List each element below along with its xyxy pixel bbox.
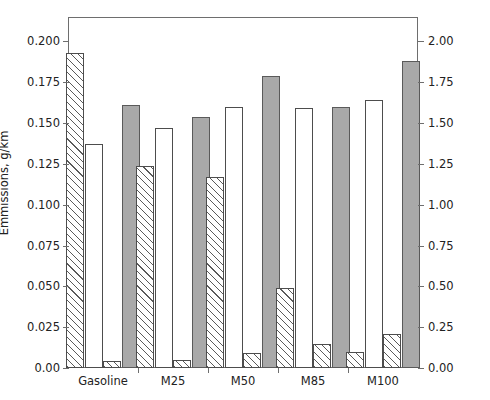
right-axis-tick-label: 1.75 bbox=[428, 76, 468, 88]
right-axis-tick bbox=[418, 286, 424, 287]
bar bbox=[402, 61, 420, 368]
left-axis-tick bbox=[63, 41, 69, 42]
right-axis-tick-label: 1.00 bbox=[428, 199, 468, 211]
right-axis-tick-label: 0.50 bbox=[428, 280, 468, 292]
left-axis-title: Emmissions, g/km bbox=[0, 131, 11, 236]
left-axis-tick bbox=[63, 164, 69, 165]
left-axis-tick bbox=[63, 123, 69, 124]
bar bbox=[276, 288, 294, 368]
left-axis-tick-label: 0.00 bbox=[10, 362, 60, 374]
bar bbox=[85, 144, 103, 368]
bar bbox=[173, 360, 191, 368]
category-label-m100: M100 bbox=[348, 375, 418, 387]
bar bbox=[225, 107, 243, 368]
right-axis-tick-label: 2.00 bbox=[428, 35, 468, 47]
right-axis-tick-label: 1.50 bbox=[428, 117, 468, 129]
bar bbox=[313, 344, 331, 368]
right-axis-tick bbox=[418, 205, 424, 206]
bar bbox=[155, 128, 173, 368]
left-axis-tick bbox=[63, 246, 69, 247]
bar bbox=[383, 334, 401, 368]
left-axis-tick bbox=[63, 205, 69, 206]
right-axis-tick bbox=[418, 164, 424, 165]
right-axis-tick bbox=[418, 327, 424, 328]
right-axis-tick-label: 0.75 bbox=[428, 240, 468, 252]
bar bbox=[365, 100, 383, 368]
category-label-gasoline: Gasoline bbox=[68, 375, 138, 387]
emissions-bar-chart: 0.000.0250.0500.0750.1000.1250.1500.1750… bbox=[0, 0, 490, 400]
bar bbox=[243, 353, 261, 368]
right-axis-tick bbox=[418, 41, 424, 42]
left-axis-tick-label: 0.100 bbox=[10, 199, 60, 211]
bar bbox=[332, 107, 350, 368]
category-separator-tick bbox=[348, 368, 349, 373]
left-axis-tick bbox=[63, 286, 69, 287]
bar bbox=[66, 53, 84, 368]
category-separator-tick bbox=[138, 368, 139, 373]
left-axis-tick-label: 0.075 bbox=[10, 240, 60, 252]
left-axis-tick-label: 0.025 bbox=[10, 321, 60, 333]
left-axis-tick-label: 0.200 bbox=[10, 35, 60, 47]
left-axis-tick-label: 0.050 bbox=[10, 280, 60, 292]
bar bbox=[136, 166, 154, 368]
left-axis-tick-label: 0.175 bbox=[10, 76, 60, 88]
right-axis-tick bbox=[418, 123, 424, 124]
right-axis-tick-label: 0.25 bbox=[428, 321, 468, 333]
left-axis-tick-label: 0.150 bbox=[10, 117, 60, 129]
category-separator-tick bbox=[278, 368, 279, 373]
right-axis-tick bbox=[418, 368, 424, 369]
right-axis-tick bbox=[418, 82, 424, 83]
right-axis-tick bbox=[418, 246, 424, 247]
left-axis-tick bbox=[63, 327, 69, 328]
category-separator-tick bbox=[208, 368, 209, 373]
bar bbox=[206, 177, 224, 368]
left-axis-tick-label: 0.125 bbox=[10, 158, 60, 170]
category-label-m85: M85 bbox=[278, 375, 348, 387]
bar bbox=[295, 108, 313, 368]
bar bbox=[103, 361, 121, 368]
category-label-m25: M25 bbox=[138, 375, 208, 387]
bar bbox=[346, 352, 364, 368]
right-axis-tick-label: 1.25 bbox=[428, 158, 468, 170]
right-axis-tick-label: 0.00 bbox=[428, 362, 468, 374]
category-label-m50: M50 bbox=[208, 375, 278, 387]
bars-layer bbox=[68, 17, 418, 368]
left-axis-tick bbox=[63, 82, 69, 83]
left-axis-tick bbox=[63, 368, 69, 369]
